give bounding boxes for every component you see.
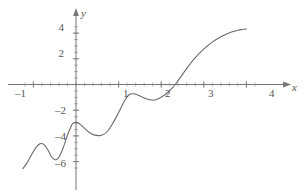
x-tick-label--1: –1 — [15, 88, 26, 99]
x-axis-label: x — [292, 82, 297, 93]
y-tick-label-2: 2 — [59, 48, 65, 59]
plot-canvas — [0, 0, 305, 194]
graph-figure: –1 1 2 3 4 4 2 –2 –4 –6 x y — [0, 0, 305, 194]
y-tick-label--4: –4 — [55, 131, 66, 142]
y-axis-label: y — [81, 8, 86, 19]
y-tick-label--6: –6 — [55, 158, 66, 169]
x-axis-arrow-icon — [283, 82, 291, 88]
y-axis-arrow-icon — [73, 8, 79, 16]
x-tick-label-4: 4 — [269, 88, 275, 99]
y-tick-label-4: 4 — [59, 22, 65, 33]
x-tick-label-1: 1 — [123, 88, 129, 99]
y-tick-label--2: –2 — [55, 105, 66, 116]
x-tick-label-3: 3 — [208, 88, 214, 99]
x-tick-label-2: 2 — [165, 88, 171, 99]
